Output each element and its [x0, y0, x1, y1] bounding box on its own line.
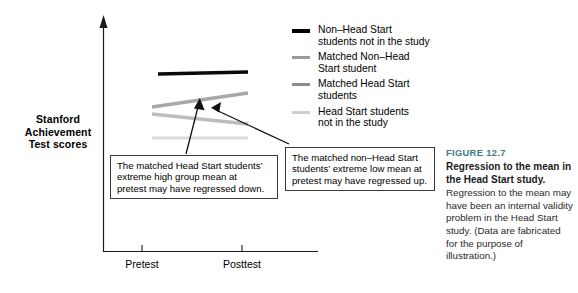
- series-non-head-start-not-in-study: [158, 72, 248, 74]
- callout-box-matched-non-head-start: The matched non–Head Start students’ ext…: [285, 147, 435, 191]
- figure-caption: FIGURE 12.7 Regression to the mean in th…: [446, 148, 574, 263]
- figure-number: FIGURE 12.7: [446, 148, 574, 158]
- x-tick-label-pretest: Pretest: [112, 258, 172, 270]
- x-axis: [103, 245, 318, 252]
- legend-item-non-head-start-not-in-study: Non–Head Start students not in the study: [292, 24, 442, 47]
- callout-left-text: The matched Head Start students’ extreme…: [117, 160, 271, 194]
- series-matched-head-start: [152, 114, 248, 124]
- legend-label-matched-head-start: Matched Head Start students: [318, 78, 442, 101]
- legend-label-matched-non-head-start: Matched Non–Head Start student: [318, 51, 442, 74]
- line-swatch-black-icon: [292, 29, 310, 33]
- line-swatch-gray-icon: [292, 56, 310, 59]
- figure-page: Stanford Achievement Test scores: [0, 0, 578, 293]
- x-tick-label-posttest: Posttest: [212, 258, 272, 270]
- figure-title: Regression to the mean in the Head Start…: [446, 161, 574, 186]
- legend-item-head-start-not-in-study: Head Start students not in the study: [292, 106, 442, 129]
- legend-label-non-head-start-not-in-study: Non–Head Start students not in the study: [318, 24, 442, 47]
- legend-item-matched-head-start: Matched Head Start students: [292, 78, 442, 101]
- chart-legend: Non–Head Start students not in the study…: [292, 24, 442, 133]
- line-swatch-lightgray-icon: [292, 111, 310, 114]
- callout-left-leader-arrow: [186, 98, 205, 154]
- line-swatch-darkgray-icon: [292, 83, 310, 86]
- callout-box-matched-head-start: The matched Head Start students’ extreme…: [110, 155, 278, 199]
- figure-body-text: Regression to the mean may have been an …: [446, 187, 574, 263]
- y-axis: [100, 15, 108, 252]
- legend-label-head-start-not-in-study: Head Start students not in the study: [318, 106, 442, 129]
- callout-right-text: The matched non–Head Start students’ ext…: [292, 152, 428, 186]
- legend-item-matched-non-head-start: Matched Non–Head Start student: [292, 51, 442, 74]
